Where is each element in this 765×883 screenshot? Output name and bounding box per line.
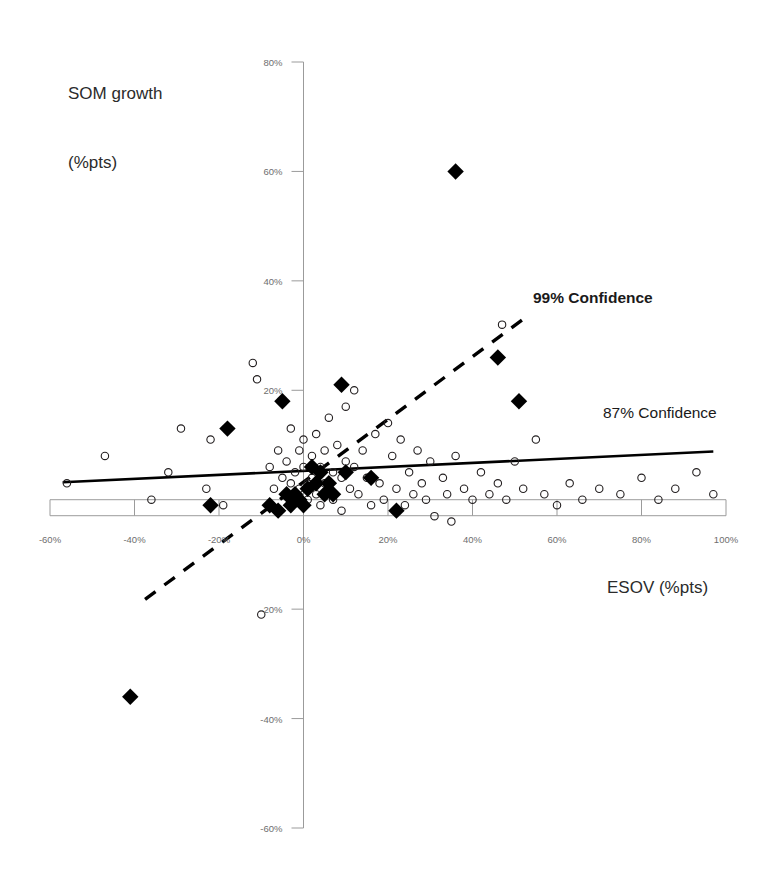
data-point-open-circle: [389, 452, 396, 459]
axis-layer: [50, 62, 726, 828]
data-point-open-circle: [249, 359, 256, 366]
data-point-open-circle: [532, 436, 539, 443]
data-point-open-circle: [405, 469, 412, 476]
data-point-open-circle: [443, 491, 450, 498]
data-point-filled-diamond: [122, 688, 138, 704]
x-tick-label: 60%: [547, 534, 567, 545]
x-tick-label: -60%: [39, 534, 62, 545]
data-point-open-circle: [410, 491, 417, 498]
data-point-open-circle: [566, 480, 573, 487]
data-point-open-circle: [486, 491, 493, 498]
x-tick-label: 80%: [632, 534, 652, 545]
y-tick-label: 20%: [263, 385, 283, 396]
data-point-open-circle: [439, 474, 446, 481]
data-point-open-circle: [321, 447, 328, 454]
data-point-open-circle: [393, 485, 400, 492]
data-point-filled-diamond: [363, 470, 379, 486]
data-point-open-circle: [253, 376, 260, 383]
data-point-open-circle: [672, 485, 679, 492]
data-point-open-circle: [317, 501, 324, 508]
data-point-open-circle: [312, 430, 319, 437]
data-point-open-circle: [266, 463, 273, 470]
data-point-open-circle: [460, 485, 467, 492]
scatter-chart: SOM growth (%pts) ESOV (%pts) 99% Confid…: [0, 0, 765, 883]
y-tick-label: -20%: [260, 604, 283, 615]
data-point-open-circle: [101, 452, 108, 459]
data-point-open-circle: [414, 447, 421, 454]
data-point-open-circle: [346, 485, 353, 492]
data-point-open-circle: [287, 480, 294, 487]
y-tick-label: 80%: [263, 57, 283, 68]
data-point-open-circle: [274, 447, 281, 454]
x-tick-label: 40%: [463, 534, 483, 545]
data-point-open-circle: [520, 485, 527, 492]
data-point-filled-diamond: [219, 420, 235, 436]
data-point-open-circle: [334, 441, 341, 448]
data-point-open-circle: [448, 518, 455, 525]
x-tick-label: 20%: [378, 534, 398, 545]
data-point-open-circle: [165, 469, 172, 476]
data-point-open-circle: [418, 480, 425, 487]
data-points-layer: [63, 163, 717, 705]
data-point-open-circle: [283, 458, 290, 465]
trendline-layer: [63, 319, 714, 599]
data-point-open-circle: [710, 491, 717, 498]
data-point-open-circle: [308, 452, 315, 459]
data-point-open-circle: [498, 321, 505, 328]
data-point-open-circle: [693, 469, 700, 476]
y-tick-label: 40%: [263, 276, 283, 287]
plot-area: -60%-40%-20%0%20%40%60%80%100%80%60%40%2…: [0, 0, 765, 883]
data-point-open-circle: [367, 501, 374, 508]
data-point-filled-diamond: [333, 377, 349, 393]
y-tick-label: -40%: [260, 714, 283, 725]
data-point-open-circle: [376, 480, 383, 487]
data-point-filled-diamond: [338, 464, 354, 480]
data-point-open-circle: [372, 430, 379, 437]
data-point-open-circle: [452, 452, 459, 459]
data-point-open-circle: [351, 387, 358, 394]
data-point-open-circle: [338, 507, 345, 514]
trendline-99-confidence: [145, 319, 523, 599]
data-point-open-circle: [541, 491, 548, 498]
y-tick-label: -60%: [260, 823, 283, 834]
data-point-open-circle: [270, 485, 277, 492]
data-point-open-circle: [355, 491, 362, 498]
data-point-filled-diamond: [388, 502, 404, 518]
data-point-open-circle: [279, 474, 286, 481]
x-tick-label: 100%: [714, 534, 739, 545]
data-point-open-circle: [397, 436, 404, 443]
x-tick-label: -40%: [123, 534, 146, 545]
data-point-open-circle: [359, 447, 366, 454]
data-point-open-circle: [220, 501, 227, 508]
data-point-open-circle: [401, 501, 408, 508]
data-point-open-circle: [325, 414, 332, 421]
data-point-filled-diamond: [490, 349, 506, 365]
tick-label-layer: -60%-40%-20%0%20%40%60%80%100%80%60%40%2…: [39, 57, 739, 834]
data-point-open-circle: [296, 447, 303, 454]
data-point-open-circle: [203, 485, 210, 492]
data-point-open-circle: [638, 474, 645, 481]
data-point-filled-diamond: [447, 163, 463, 179]
data-point-open-circle: [596, 485, 603, 492]
data-point-open-circle: [207, 436, 214, 443]
data-point-filled-diamond: [511, 393, 527, 409]
y-tick-label: 60%: [263, 166, 283, 177]
data-point-open-circle: [617, 491, 624, 498]
data-point-open-circle: [342, 458, 349, 465]
x-tick-label: 0%: [297, 534, 311, 545]
data-point-open-circle: [477, 469, 484, 476]
data-point-open-circle: [287, 425, 294, 432]
data-point-open-circle: [494, 480, 501, 487]
data-point-open-circle: [342, 403, 349, 410]
data-point-open-circle: [177, 425, 184, 432]
x-tick-label: -20%: [208, 534, 231, 545]
